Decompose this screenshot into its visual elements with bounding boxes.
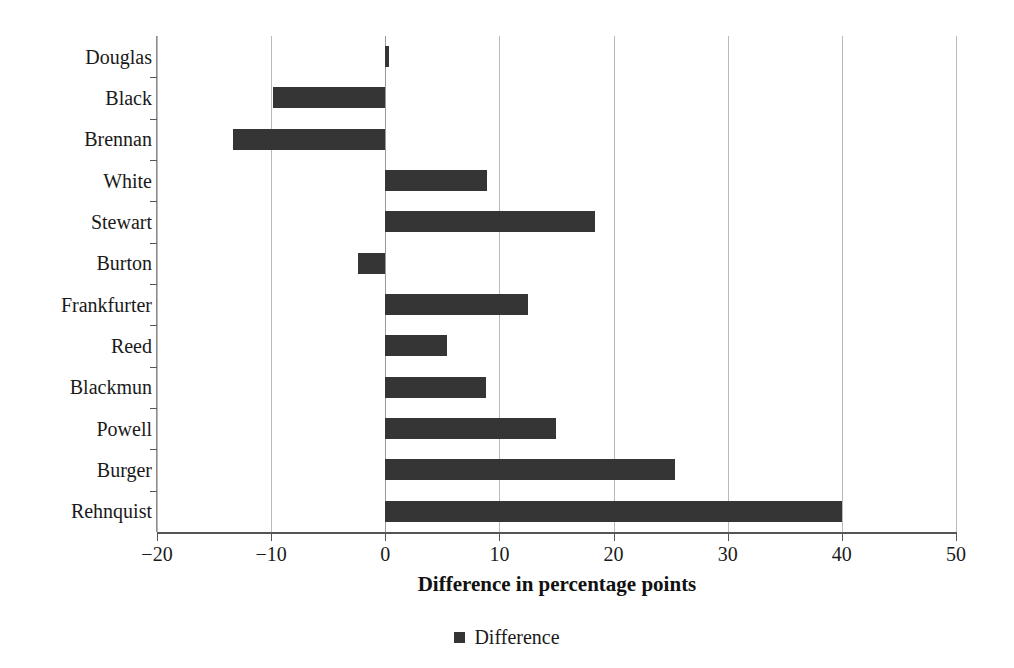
bar-powell [385,418,556,439]
x-axis-tick-20 [614,532,615,541]
x-axis-tick-label-50: 50 [921,543,991,566]
y-axis-tick [150,491,157,492]
bar-row [157,284,956,325]
x-axis-tick--20 [157,532,158,541]
bar-row [157,160,956,201]
category-label-black: Black [7,88,152,108]
bar-row [157,449,956,490]
category-label-powell: Powell [7,419,152,439]
y-axis-tick [150,408,157,409]
y-axis-tick [150,449,157,450]
x-axis-tick-50 [956,532,957,541]
x-axis-tick-label--20: −20 [122,543,192,566]
x-axis-tick-label--10: −10 [236,543,306,566]
category-label-frankfurter: Frankfurter [7,295,152,315]
bar-row [157,119,956,160]
bar-frankfurter [385,294,528,315]
category-label-douglas: Douglas [7,47,152,67]
category-label-blackmun: Blackmun [7,377,152,397]
plot-area [157,36,956,532]
y-axis-tick [150,367,157,368]
legend-item-difference: Difference [454,626,559,649]
bar-burton [358,253,385,274]
bar-brennan [233,129,385,150]
bar-burger [385,459,675,480]
y-axis-category-labels: DouglasBlackBrennanWhiteStewartBurtonFra… [0,36,152,532]
category-label-rehnquist: Rehnquist [7,501,152,521]
chart-legend: Difference [0,626,1014,649]
y-axis-tick [150,160,157,161]
bar-blackmun [385,377,485,398]
y-axis-tick [150,77,157,78]
x-axis-tick-40 [842,532,843,541]
category-label-white: White [7,171,152,191]
gridline-50 [956,36,957,532]
bar-row [157,36,956,77]
y-axis-tick [150,243,157,244]
category-label-reed: Reed [7,336,152,356]
x-axis-title: Difference in percentage points [157,572,957,597]
category-label-brennan: Brennan [7,129,152,149]
bar-row [157,408,956,449]
y-axis-tick [150,325,157,326]
bar-row [157,491,956,532]
bar-stewart [385,211,595,232]
x-axis-tick-label-40: 40 [807,543,877,566]
x-axis-tick-30 [728,532,729,541]
bar-chart: DouglasBlackBrennanWhiteStewartBurtonFra… [0,0,1014,668]
bar-row [157,367,956,408]
bar-douglas [385,46,388,67]
bar-reed [385,335,447,356]
x-axis-tick-0 [385,532,386,541]
bar-black [273,87,385,108]
x-axis-tick-label-30: 30 [693,543,763,566]
bar-row [157,325,956,366]
y-axis-tick [150,284,157,285]
x-axis-tick-label-10: 10 [464,543,534,566]
x-axis-tick-label-20: 20 [579,543,649,566]
bar-row [157,243,956,284]
x-axis-tick-label-0: 0 [350,543,420,566]
bar-rehnquist [385,501,842,522]
category-label-burger: Burger [7,460,152,480]
x-axis-line [157,532,957,534]
x-axis-tick--10 [271,532,272,541]
bar-row [157,201,956,242]
y-axis-tick [150,201,157,202]
bar-row [157,77,956,118]
x-axis-tick-10 [499,532,500,541]
category-label-stewart: Stewart [7,212,152,232]
y-axis-tick [150,119,157,120]
category-label-burton: Burton [7,253,152,273]
legend-label: Difference [474,626,559,649]
legend-swatch-icon [454,632,465,643]
bar-white [385,170,487,191]
